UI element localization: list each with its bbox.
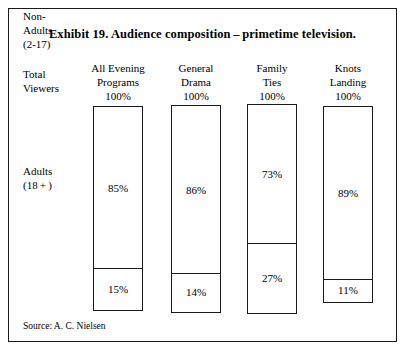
- bar-segment-adults-general-drama: 86%: [172, 106, 220, 274]
- bar-value-non-adults-all-evening-programs: 15%: [108, 283, 128, 295]
- stacked-bar-all-evening-programs: 85%15%: [93, 106, 143, 311]
- column-header-general-drama: General Drama: [160, 61, 232, 89]
- bar-value-non-adults-knots-landing: 11%: [338, 284, 358, 296]
- bar-segment-adults-all-evening-programs: 85%: [94, 107, 142, 269]
- exhibit-frame: Exhibit 19. Audience composition – prime…: [8, 8, 397, 342]
- column-header-family-ties: Family Ties: [236, 61, 308, 89]
- bar-value-non-adults-general-drama: 14%: [186, 286, 206, 298]
- column-header-all-evening-programs: All Evening Programs: [82, 61, 154, 89]
- bar-segment-non-adults-general-drama: 14%: [172, 272, 220, 312]
- bar-segment-adults-family-ties: 73%: [248, 105, 296, 244]
- bar-segment-non-adults-family-ties: 27%: [248, 242, 296, 313]
- bar-segment-adults-knots-landing: 89%: [324, 107, 372, 280]
- source-note: Source: A. C. Nielsen: [23, 321, 106, 331]
- bar-segment-non-adults-knots-landing: 11%: [324, 278, 372, 302]
- row-label-non-adults: Non- Adults (2-17): [23, 9, 52, 51]
- bar-value-adults-knots-landing: 89%: [338, 187, 358, 199]
- row-label-adults: Adults (18 + ): [23, 164, 52, 192]
- exhibit-title: Exhibit 19. Audience composition – prime…: [9, 27, 396, 42]
- column-total-knots-landing: 100%: [312, 89, 384, 103]
- stacked-bar-knots-landing: 89%11%: [323, 106, 373, 303]
- bar-value-adults-family-ties: 73%: [262, 168, 282, 180]
- column-header-knots-landing: Knots Landing: [312, 61, 384, 89]
- bar-segment-non-adults-all-evening-programs: 15%: [94, 267, 142, 310]
- bar-value-adults-all-evening-programs: 85%: [108, 182, 128, 194]
- column-total-family-ties: 100%: [236, 89, 308, 103]
- bar-value-non-adults-family-ties: 27%: [262, 272, 282, 284]
- stacked-bar-general-drama: 86%14%: [171, 105, 221, 313]
- bar-value-adults-general-drama: 86%: [186, 184, 206, 196]
- column-total-all-evening-programs: 100%: [82, 89, 154, 103]
- stacked-bar-family-ties: 73%27%: [247, 104, 297, 314]
- row-label-total-viewers: Total Viewers: [23, 67, 59, 95]
- column-total-general-drama: 100%: [160, 89, 232, 103]
